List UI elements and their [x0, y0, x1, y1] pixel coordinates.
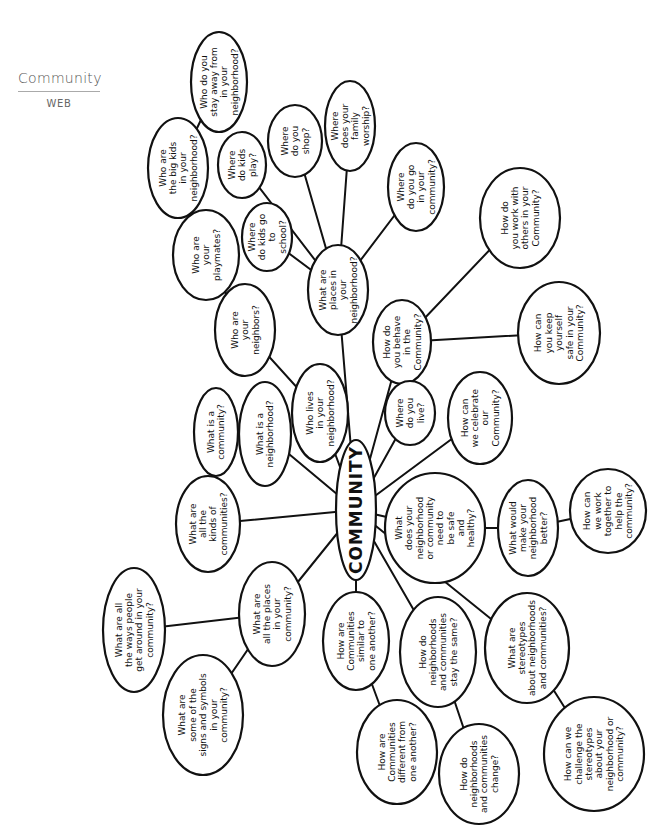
question-bubble-n21: What wouldmake yourneighborhoodbetter?: [498, 480, 558, 576]
question-bubble-n17: What is acommunity?: [194, 388, 238, 476]
question-bubble-n3: Who areyourplaymates?: [173, 210, 239, 300]
question-bubble-n10: What areplaces inyourneighborhood?: [308, 245, 368, 335]
question-bubble-n24: What areall the placesin yourcommunity?: [239, 562, 305, 666]
question-bubble-n2: Who arethe big kidsin yourneighborhood?: [148, 118, 208, 218]
question-bubble-n7: Wheredo youshop?: [268, 105, 322, 177]
question-bubble-n19: What areall thekinds ofcommunities?: [176, 476, 240, 572]
bubble-text: What is acommunity?: [206, 404, 226, 460]
question-bubble-n6: Wheredo kidsplay?: [218, 132, 266, 198]
community-web-diagram: Who do youstay away fromin yourneighborh…: [0, 0, 667, 829]
question-bubble-n15: Wheredo youlive?: [385, 381, 435, 445]
question-bubble-n28: What arestereotypesabout neighborhoodsan…: [485, 593, 569, 703]
question-bubble-n20: Whatdoes yourneighborhoodor communitynee…: [385, 473, 485, 583]
question-bubble-n5: Who livesin yourneighborhood?: [292, 364, 348, 462]
question-bubble-n14: How canyou keepyourselfsafe in yourCommu…: [518, 282, 600, 384]
question-bubble-n16: How canwe celebrateourCommunity?: [448, 372, 512, 464]
question-bubble-n11: Wheredo kids gotoschool?: [242, 203, 292, 271]
question-bubble-n13: How doyou behavein theCommunity?: [373, 300, 431, 384]
question-bubble-n8: Wheredoes yourfamilyworship?: [325, 81, 375, 171]
question-bubble-n12: How doyou work withothers in yourCommuni…: [480, 168, 560, 268]
question-bubble-n22: How canwe worktogether tohelp thecommuni…: [570, 469, 646, 553]
bubble-text: COMMUNITY: [346, 446, 366, 574]
question-bubbles: Who do youstay away fromin yourneighborh…: [103, 32, 646, 824]
question-bubble-n23: What are allthe ways peopleget around in…: [103, 568, 165, 692]
question-bubble-n27: How doneighborhoodsand communitiesstay t…: [400, 597, 476, 707]
question-bubble-n30: How doneighborhoodsand communitieschange…: [439, 724, 519, 824]
question-bubble-n26: How areCommunitiessimilar toone another?: [323, 592, 389, 690]
question-bubble-n9: Wheredo you goin yourcommunity?: [388, 143, 444, 231]
question-bubble-n4: Who areyourneighbors?: [215, 284, 275, 376]
bubble-text: Wheredo youshop?: [280, 126, 311, 157]
question-bubble-n25: What aresome of thesigns and symbolsin y…: [163, 655, 243, 775]
question-bubble-n31: How can wechallenge thestereotypesabout …: [544, 697, 644, 811]
question-bubble-n29: How areCommunitiesdifferent fromone anot…: [357, 700, 437, 804]
bubble-text: Wheredo kidsplay?: [227, 149, 258, 182]
question-bubble-n1: Who do youstay away fromin yourneighborh…: [191, 32, 247, 132]
center-node-community: COMMUNITY: [336, 440, 376, 580]
question-bubble-n18: What is aneighborhood?: [239, 382, 291, 486]
